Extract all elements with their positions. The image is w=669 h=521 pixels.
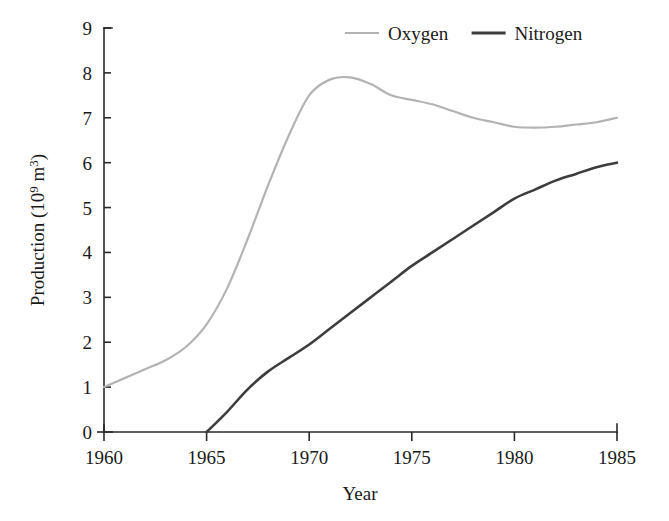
axes bbox=[104, 28, 617, 432]
x-tick-label-1980: 1980 bbox=[495, 447, 533, 468]
legend-label-nitrogen: Nitrogen bbox=[515, 23, 583, 44]
y-tick-label-4: 4 bbox=[83, 242, 93, 263]
y-tick-label-6: 6 bbox=[83, 153, 93, 174]
svg-text:Production (109 m3): Production (109 m3) bbox=[26, 154, 49, 306]
x-tick-label-1975: 1975 bbox=[393, 447, 431, 468]
series-line-nitrogen bbox=[207, 163, 617, 432]
x-tick-label-1965: 1965 bbox=[188, 447, 226, 468]
x-axis-title: Year bbox=[342, 483, 378, 504]
x-tick-label-1970: 1970 bbox=[290, 447, 328, 468]
y-axis-title-units: m bbox=[27, 166, 48, 186]
x-tick-label-1960: 1960 bbox=[85, 447, 123, 468]
y-tick-label-3: 3 bbox=[83, 287, 93, 308]
x-axis-tick-labels: 196019651970197519801985 bbox=[85, 447, 636, 468]
production-line-chart: 0123456789 196019651970197519801985 Prod… bbox=[0, 0, 669, 521]
y-tick-label-8: 8 bbox=[83, 63, 93, 84]
y-tick-label-2: 2 bbox=[83, 332, 93, 353]
y-tick-label-5: 5 bbox=[83, 198, 93, 219]
chart-legend: OxygenNitrogen bbox=[345, 23, 583, 44]
y-tick-label-9: 9 bbox=[83, 18, 93, 39]
legend-label-oxygen: Oxygen bbox=[388, 23, 449, 44]
data-series-group bbox=[104, 77, 617, 432]
y-tick-label-1: 1 bbox=[83, 377, 93, 398]
y-axis-title: Production (109 m3) bbox=[26, 154, 49, 306]
y-tick-label-7: 7 bbox=[83, 108, 93, 129]
y-axis-title-main: Production (10 bbox=[27, 193, 49, 306]
y-axis-ticks bbox=[97, 28, 113, 432]
chart-container: 0123456789 196019651970197519801985 Prod… bbox=[0, 0, 669, 521]
y-tick-label-0: 0 bbox=[83, 422, 93, 443]
x-tick-label-1985: 1985 bbox=[598, 447, 636, 468]
y-axis-title-close: ) bbox=[27, 154, 49, 160]
series-line-oxygen bbox=[104, 77, 617, 387]
y-axis-tick-labels: 0123456789 bbox=[83, 18, 93, 443]
